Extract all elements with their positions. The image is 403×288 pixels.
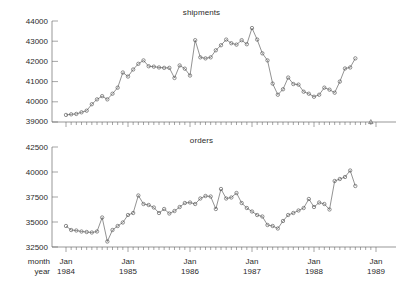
orders-plot-group <box>52 147 396 252</box>
shipments-plot-group <box>52 21 396 127</box>
chart-page: shipments orders 44000 43000 42000 41000… <box>0 0 403 288</box>
chart-canvas <box>0 0 403 288</box>
